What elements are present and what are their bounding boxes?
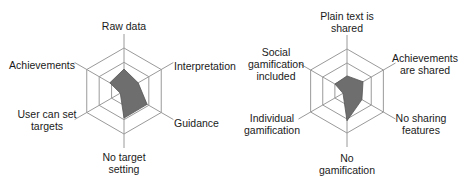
left-label-achievements: Achievements — [9, 59, 75, 71]
right-label-achievements-shared: Achievements are shared — [392, 52, 458, 76]
label-line: No sharing — [396, 112, 447, 124]
label-line: Social — [248, 46, 304, 58]
label-line: gamification — [244, 124, 300, 136]
label-line: Raw data — [102, 20, 146, 32]
label-line: User can set — [18, 108, 77, 120]
label-line: features — [396, 124, 447, 136]
label-line: gamification — [319, 164, 375, 176]
label-line: Interpretation — [174, 60, 236, 72]
label-line: gamification — [248, 58, 304, 70]
right-label-social-gamification: Social gamification included — [248, 46, 304, 82]
right-label-individual-gamification: Individual gamification — [244, 112, 300, 136]
radar-charts — [0, 0, 465, 185]
label-line: Achievements — [392, 52, 458, 64]
label-line: Guidance — [174, 117, 219, 129]
right-radar-chart — [299, 35, 396, 147]
left-label-no-target-setting: No target setting — [102, 151, 145, 175]
label-line: are shared — [392, 64, 458, 76]
label-line: included — [248, 70, 304, 82]
left-label-guidance: Guidance — [174, 117, 219, 129]
label-line: setting — [102, 163, 145, 175]
right-label-plain-text-shared: Plain text is shared — [320, 10, 374, 34]
label-line: No target — [102, 151, 145, 163]
label-line: Plain text is — [320, 10, 374, 22]
data-area — [110, 69, 147, 118]
label-line: targets — [18, 120, 77, 132]
label-line: shared — [320, 22, 374, 34]
right-label-no-gamification: No gamification — [319, 152, 375, 176]
left-radar-chart — [75, 34, 174, 148]
label-line: No — [319, 152, 375, 164]
left-label-user-can-set-targets: User can set targets — [18, 108, 77, 132]
right-label-no-sharing-features: No sharing features — [396, 112, 447, 136]
label-line: Individual — [244, 112, 300, 124]
label-line: Achievements — [9, 59, 75, 71]
left-label-raw-data: Raw data — [102, 20, 146, 32]
left-label-interpretation: Interpretation — [174, 60, 236, 72]
